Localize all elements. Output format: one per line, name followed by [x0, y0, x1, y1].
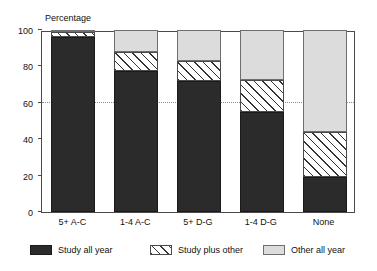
- bar-none[interactable]: [303, 30, 347, 212]
- legend-item-other-all-year[interactable]: Other all year: [263, 245, 345, 255]
- bar-segment-other-all-year[interactable]: [177, 30, 221, 61]
- y-axis-tick-label-40: 40: [0, 136, 33, 145]
- legend-label-study-all-year: Study all year: [58, 245, 113, 255]
- y-axis-title: Percentage: [45, 13, 91, 24]
- bar-segment-study-plus-other[interactable]: [303, 132, 347, 178]
- y-axis-tick-80: [38, 65, 42, 66]
- y-axis-tick-60: [38, 102, 42, 103]
- y-axis-tick-label-100: 100: [0, 27, 33, 36]
- bar-5-a-c[interactable]: [51, 30, 95, 212]
- legend-item-study-all-year[interactable]: Study all year: [30, 245, 113, 255]
- legend-swatch-other-all-year: [263, 245, 285, 255]
- bar-5-d-g[interactable]: [177, 30, 221, 212]
- legend-swatch-study-plus-other: [150, 245, 172, 255]
- x-axis-tick-label-1-4-a-c: 1-4 A-C: [104, 217, 167, 227]
- bar-segment-study-all-year[interactable]: [303, 177, 347, 212]
- y-axis-tick-label-80: 80: [0, 63, 33, 72]
- legend-label-other-all-year: Other all year: [291, 245, 345, 255]
- x-axis-tick-label-5-d-g: 5+ D-G: [167, 217, 230, 227]
- x-axis-tick-label-none: None: [292, 217, 355, 227]
- legend-swatch-study-all-year: [30, 245, 52, 255]
- y-axis-tick-label-60: 60: [0, 100, 33, 109]
- x-axis-tick-label-1-4-d-g: 1-4 D-G: [229, 217, 292, 227]
- x-axis-tick-label-5-a-c: 5+ A-C: [41, 217, 104, 227]
- bar-1-4-d-g[interactable]: [240, 30, 284, 212]
- bar-segment-study-plus-other[interactable]: [240, 80, 284, 112]
- y-axis-tick-0: [38, 211, 42, 212]
- bar-segment-study-all-year[interactable]: [51, 37, 95, 212]
- plot-inner: [42, 32, 354, 212]
- y-axis-tick-40: [38, 138, 42, 139]
- bar-1-4-a-c[interactable]: [114, 30, 158, 212]
- bar-segment-other-all-year[interactable]: [114, 30, 158, 52]
- bar-segment-study-all-year[interactable]: [240, 112, 284, 212]
- chart-legend: Study all yearStudy plus otherOther all …: [0, 243, 377, 261]
- bar-segment-other-all-year[interactable]: [303, 30, 347, 132]
- y-axis-tick-20: [38, 175, 42, 176]
- bar-segment-other-all-year[interactable]: [240, 30, 284, 80]
- stacked-bar-chart-figure: Percentage 020406080100 5+ A-C1-4 A-C5+ …: [0, 0, 377, 271]
- bar-segment-study-all-year[interactable]: [114, 71, 158, 212]
- bar-segment-study-plus-other[interactable]: [177, 61, 221, 81]
- plot-area: [41, 31, 355, 213]
- y-axis-tick-100: [38, 29, 42, 30]
- y-axis-tick-label-0: 0: [0, 209, 33, 218]
- legend-label-study-plus-other: Study plus other: [178, 245, 243, 255]
- legend-item-study-plus-other[interactable]: Study plus other: [150, 245, 243, 255]
- bar-segment-study-plus-other[interactable]: [114, 52, 158, 71]
- bar-segment-study-all-year[interactable]: [177, 81, 221, 212]
- y-axis-tick-label-20: 20: [0, 173, 33, 182]
